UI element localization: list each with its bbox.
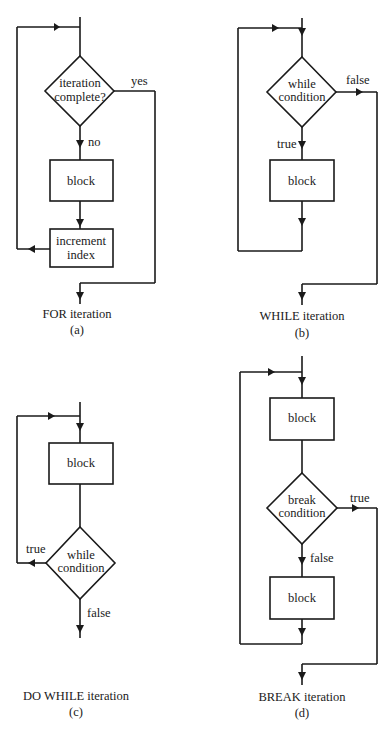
- arrow-right-icon: [268, 368, 275, 376]
- label-false: false: [310, 551, 334, 565]
- arrow-down-icon: [298, 377, 306, 385]
- label-true: true: [26, 542, 46, 556]
- caption-sub: (a): [70, 323, 84, 337]
- label-false: false: [87, 606, 111, 620]
- panel-for-iteration: iteration complete? yes no block increme…: [17, 17, 155, 337]
- flowchart-figure: iteration complete? yes no block increme…: [0, 0, 392, 730]
- caption: FOR iteration: [42, 307, 112, 321]
- decision-text-1: iteration: [59, 76, 101, 90]
- increment-text-2: index: [67, 248, 96, 262]
- caption-sub: (c): [69, 705, 83, 719]
- arrow-down-icon: [298, 557, 306, 565]
- arrow-down-icon: [76, 625, 84, 633]
- label-false: false: [346, 73, 370, 87]
- decision-text-1: while: [67, 548, 95, 562]
- arrow-down-icon: [298, 28, 306, 36]
- arrow-left-icon: [28, 559, 35, 567]
- decision-text-2: condition: [57, 561, 105, 575]
- arrow-down-icon: [298, 218, 306, 226]
- decision-text-2: complete?: [54, 90, 106, 104]
- arrow-left-icon: [28, 245, 35, 253]
- arrow-down-icon: [298, 672, 306, 680]
- arrow-right-icon: [272, 24, 279, 32]
- panel-while-iteration: while condition false true block WHILE i…: [238, 18, 377, 340]
- decision-text-2: condition: [278, 506, 326, 520]
- caption: BREAK iteration: [258, 690, 346, 704]
- arrow-down-icon: [298, 141, 306, 149]
- decision-text-1: while: [288, 77, 316, 91]
- decision-text-2: condition: [278, 90, 326, 104]
- label-no: no: [88, 135, 101, 149]
- label-true: true: [277, 137, 297, 151]
- block-text: block: [67, 456, 96, 470]
- arrow-right-icon: [48, 412, 55, 420]
- block-text-2: block: [288, 591, 317, 605]
- label-yes: yes: [131, 74, 148, 88]
- arrow-down-icon: [298, 628, 306, 636]
- block-text: block: [67, 174, 96, 188]
- block-text-1: block: [288, 411, 317, 425]
- arrow-down-icon: [76, 140, 84, 148]
- caption: DO WHILE iteration: [23, 689, 130, 703]
- panel-break-iteration: block break condition true false block B…: [240, 356, 377, 720]
- caption-sub: (b): [295, 326, 310, 340]
- decision-text-1: break: [288, 493, 317, 507]
- arrow-right-icon: [356, 88, 363, 96]
- arrow-down-icon: [76, 292, 84, 300]
- caption: WHILE iteration: [259, 309, 345, 323]
- label-true: true: [350, 491, 370, 505]
- arrow-right-icon: [352, 504, 359, 512]
- arrow-right-icon: [54, 23, 60, 31]
- increment-text-1: increment: [56, 234, 107, 248]
- block-text: block: [288, 174, 317, 188]
- caption-sub: (d): [295, 706, 310, 720]
- arrow-down-icon: [298, 292, 306, 300]
- arrow-down-icon: [76, 423, 84, 431]
- arrow-down-icon: [76, 219, 84, 227]
- panel-do-while-iteration: block while condition true false DO WHIL…: [17, 402, 130, 719]
